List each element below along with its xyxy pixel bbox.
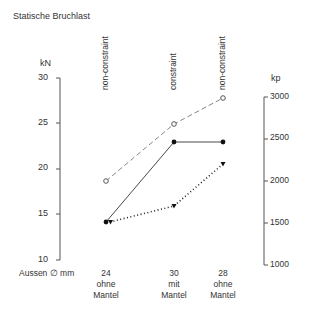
right-axis <box>264 97 268 265</box>
left-axis <box>56 78 60 260</box>
filled-circle-marker <box>221 140 226 145</box>
open-circle-marker <box>172 122 177 127</box>
open-circle-marker <box>221 96 226 101</box>
series-open-circle-dashed <box>104 96 226 184</box>
series-triangle-dotted <box>108 162 226 225</box>
chart-plot <box>0 0 309 316</box>
triangle-marker <box>172 204 177 209</box>
triangle-marker <box>108 220 113 225</box>
filled-circle-marker <box>104 220 109 225</box>
open-circle-marker <box>104 179 109 184</box>
filled-circle-marker <box>172 140 177 145</box>
series-filled-circle-solid <box>104 140 226 225</box>
triangle-marker <box>221 162 226 167</box>
